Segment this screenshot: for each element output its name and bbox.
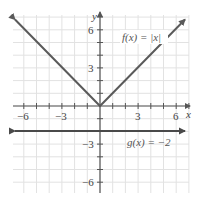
f-function-label: f(x) = |x|: [122, 31, 161, 44]
y-axis-label: y: [91, 10, 97, 22]
y-tick-label: −3: [82, 138, 94, 150]
coordinate-plane: −6 −3 3 6 6 3 −3 −6 x y f(x) = |x| g(x) …: [0, 0, 199, 199]
g-function-label: g(x) = −2: [127, 136, 171, 149]
x-tick-label: −6: [17, 110, 29, 122]
x-axis-label: x: [185, 108, 191, 120]
y-tick-label: −6: [82, 176, 94, 188]
y-tick-label: 3: [88, 62, 94, 74]
x-tick-label: 6: [173, 110, 179, 122]
y-tick-label: 6: [88, 24, 94, 36]
x-tick-label: 3: [135, 110, 141, 122]
x-tick-label: −3: [55, 110, 67, 122]
